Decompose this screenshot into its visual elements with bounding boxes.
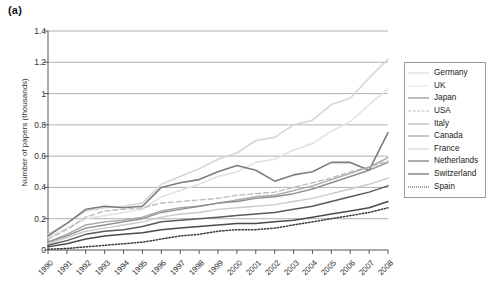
legend-swatch-icon — [408, 144, 429, 154]
legend-item-germany[interactable]: Germany — [408, 67, 482, 80]
legend-item-france[interactable]: France — [408, 143, 482, 156]
legend-swatch-icon — [408, 119, 429, 129]
legend-label: USA — [434, 107, 451, 115]
legend-swatch-icon — [408, 169, 429, 179]
legend-label: Japan — [434, 94, 456, 102]
y-tick-label: 1 — [12, 89, 46, 99]
series-line-canada — [48, 162, 388, 242]
legend-label: Canada — [434, 132, 463, 140]
panel-label: (a) — [8, 4, 22, 16]
legend-label: UK — [434, 82, 445, 90]
plot-area — [48, 31, 388, 250]
y-tick-label: 0 — [12, 245, 46, 255]
legend-item-italy[interactable]: Italy — [408, 117, 482, 130]
legend-item-uk[interactable]: UK — [408, 80, 482, 93]
legend-item-canada[interactable]: Canada — [408, 130, 482, 143]
legend-item-spain[interactable]: Spain — [408, 180, 482, 193]
legend-item-switzerland[interactable]: Switzerland — [408, 168, 482, 181]
y-tick-label: 0.4 — [12, 182, 46, 192]
legend-swatch-icon — [408, 156, 429, 166]
legend-item-usa[interactable]: USA — [408, 105, 482, 118]
legend-label: Italy — [434, 120, 449, 128]
series-line-japan — [48, 133, 388, 236]
legend-swatch-icon — [408, 182, 429, 192]
legend-item-netherlands[interactable]: Netherlands — [408, 155, 482, 168]
chart-legend: GermanyUKJapanUSAItalyCanadaFranceNether… — [404, 62, 486, 198]
legend-item-japan[interactable]: Japan — [408, 92, 482, 105]
series-line-germany — [48, 59, 388, 234]
legend-label: France — [434, 145, 459, 153]
y-tick-label: 0.6 — [12, 151, 46, 161]
legend-label: Spain — [434, 183, 455, 191]
legend-label: Germany — [434, 69, 468, 77]
legend-swatch-icon — [408, 106, 429, 116]
legend-swatch-icon — [408, 68, 429, 78]
series-line-france — [48, 178, 388, 244]
y-tick-label: 0.8 — [12, 120, 46, 130]
legend-label: Netherlands — [434, 157, 478, 165]
y-tick-label: 1.2 — [12, 57, 46, 67]
y-tick-label: 1.4 — [12, 26, 46, 36]
legend-swatch-icon — [408, 131, 429, 141]
y-tick-label: 0.2 — [12, 214, 46, 224]
legend-swatch-icon — [408, 93, 429, 103]
chart-figure: (a) Number of papers (thousands) 00.20.4… — [0, 0, 489, 281]
legend-swatch-icon — [408, 81, 429, 91]
legend-label: Switzerland — [434, 170, 476, 178]
